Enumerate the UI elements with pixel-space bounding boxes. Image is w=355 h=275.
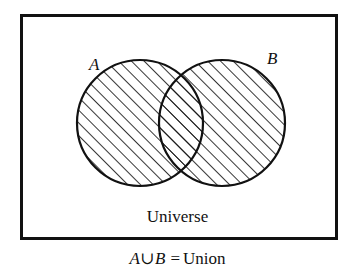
figure-caption: A∪B=Union bbox=[0, 250, 355, 267]
caption-result: Union bbox=[183, 249, 226, 268]
union-operator-icon: ∪ bbox=[140, 249, 155, 268]
caption-set-a: A bbox=[129, 249, 139, 268]
caption-set-b: B bbox=[155, 249, 165, 268]
universe-label: Universe bbox=[0, 208, 355, 225]
set-label-a: A bbox=[89, 56, 99, 73]
caption-equals-sign: = bbox=[165, 249, 183, 268]
venn-diagram-figure: A B Universe A∪B=Union bbox=[0, 0, 355, 275]
shaded-region-union bbox=[77, 60, 285, 186]
set-label-b: B bbox=[267, 50, 277, 67]
